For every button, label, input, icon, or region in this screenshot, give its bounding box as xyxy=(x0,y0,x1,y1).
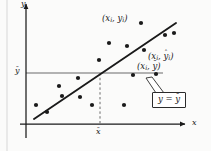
annotation-observed-point: (xi, yi) xyxy=(102,14,128,24)
regression-figure: (xi, yi) (xi, ˆyi) (xi, ¯y) y = ¯y ¯y ¯x… xyxy=(0,0,211,151)
x-axis-mean-tick-label: ¯x xyxy=(96,128,101,136)
data-point xyxy=(163,33,167,37)
mean-line-callout-box: y = ¯y xyxy=(152,92,186,108)
data-point xyxy=(90,103,94,107)
y-axis-mean-tick-label: ¯y xyxy=(15,67,20,75)
x-axis-label: x xyxy=(192,119,197,127)
annotation-mean-point: (xi, ¯y) xyxy=(137,62,161,72)
data-point xyxy=(45,110,49,114)
data-point xyxy=(107,41,111,45)
data-point xyxy=(57,84,61,88)
data-point xyxy=(122,103,126,107)
data-point xyxy=(34,103,38,107)
data-point xyxy=(154,72,158,76)
y-axis-label: y xyxy=(21,0,26,8)
data-point xyxy=(139,21,143,25)
data-point xyxy=(97,58,101,62)
data-point xyxy=(125,44,129,48)
data-point xyxy=(60,94,64,98)
callout-leader xyxy=(146,77,164,93)
data-point xyxy=(78,95,82,99)
data-point xyxy=(172,31,176,35)
data-point xyxy=(76,76,80,80)
data-point xyxy=(131,73,135,77)
data-point xyxy=(142,48,146,52)
